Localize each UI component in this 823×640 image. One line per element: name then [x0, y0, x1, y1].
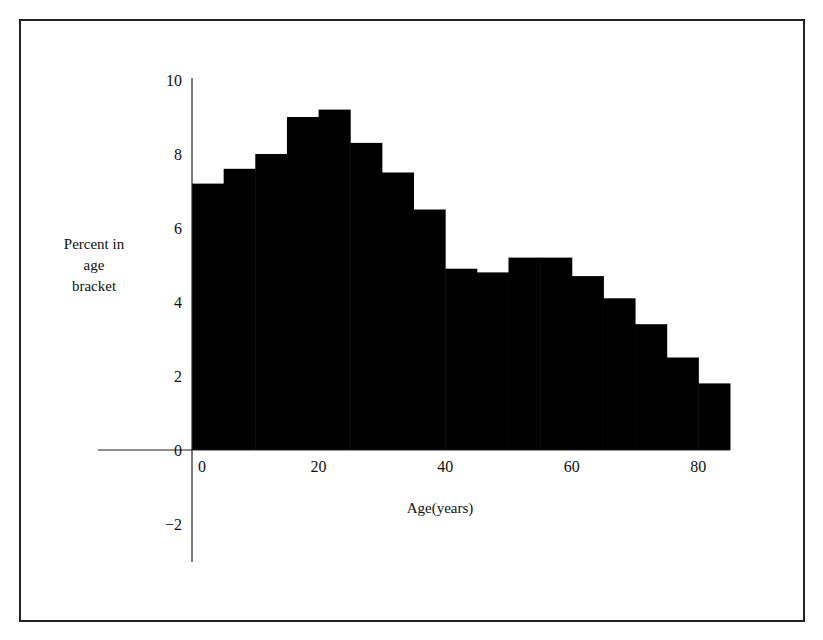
x-tick-label: 40 — [437, 458, 453, 475]
y-tick-label: 4 — [174, 294, 182, 311]
y-axis-label-line-2: age — [50, 255, 138, 276]
y-tick-label: 10 — [166, 72, 182, 89]
y-tick-label: 8 — [174, 146, 182, 163]
histogram-bar — [635, 324, 667, 450]
y-axis-label-line-3: bracket — [50, 276, 138, 297]
y-tick-label: 0 — [174, 442, 182, 459]
histogram-bar — [508, 258, 540, 450]
x-tick-label: 80 — [690, 458, 706, 475]
histogram-chart: 1086420−2020406080 — [0, 0, 823, 640]
histogram-bar — [192, 184, 224, 450]
histogram-bar — [414, 210, 446, 451]
y-tick-label: 6 — [174, 220, 182, 237]
x-tick-label: 60 — [564, 458, 580, 475]
histogram-bar — [224, 169, 256, 450]
histogram-bar — [255, 154, 287, 450]
y-tick-label: −2 — [165, 516, 182, 533]
histogram-bar — [477, 272, 509, 450]
histogram-bar — [540, 258, 572, 450]
histogram-bar — [287, 117, 319, 450]
y-axis-label-line-1: Percent in — [50, 234, 138, 255]
histogram-bar — [350, 143, 382, 450]
histogram-bar — [698, 383, 730, 450]
y-axis-label: Percent in age bracket — [50, 234, 138, 297]
histogram-bar — [603, 298, 635, 450]
histogram-bar — [319, 110, 351, 450]
x-tick-label: 20 — [311, 458, 327, 475]
histogram-bar — [667, 358, 699, 451]
x-tick-label: 0 — [198, 458, 206, 475]
histogram-bar — [445, 269, 477, 450]
histogram-bar — [382, 173, 414, 451]
histogram-bar — [572, 276, 604, 450]
x-axis-label: Age(years) — [380, 500, 500, 517]
y-tick-label: 2 — [174, 368, 182, 385]
